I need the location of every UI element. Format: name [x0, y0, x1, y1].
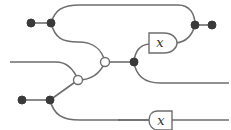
string-diagram: x x [0, 0, 231, 130]
lower-x-label: x [157, 113, 165, 128]
upper-x-box: x [149, 33, 177, 53]
wire-black-to-right-out [134, 62, 229, 83]
wire-top-arc [51, 5, 195, 25]
black-node [47, 19, 55, 27]
wire-left-to-upper-white [51, 23, 105, 62]
lower-x-box: x [149, 111, 172, 130]
white-node [101, 58, 110, 67]
black-node [18, 96, 26, 104]
wire-black-to-lower-box [50, 100, 150, 120]
white-node [74, 76, 83, 85]
wire-left-input [10, 62, 78, 80]
black-node [208, 21, 216, 29]
black-node [27, 19, 35, 27]
black-node [130, 58, 138, 66]
black-node [191, 21, 199, 29]
black-node [46, 96, 54, 104]
upper-x-label: x [156, 35, 164, 50]
